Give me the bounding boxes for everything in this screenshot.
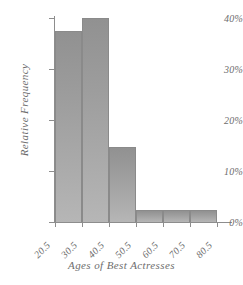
histogram-bar bbox=[55, 31, 82, 222]
x-tick-mark bbox=[217, 222, 218, 227]
x-axis-title: Ages of Best Actresses bbox=[0, 259, 243, 271]
x-tick-label: 70.5 bbox=[167, 239, 188, 260]
histogram-bar bbox=[190, 210, 217, 222]
x-tick-label: 60.5 bbox=[140, 239, 161, 260]
y-axis-title: Relative Frequency bbox=[18, 40, 30, 180]
x-tick-label: 80.5 bbox=[194, 239, 215, 260]
x-tick-label: 20.5 bbox=[32, 239, 53, 260]
x-tick-mark bbox=[55, 222, 56, 227]
x-tick-mark bbox=[109, 222, 110, 227]
histogram-bar bbox=[163, 210, 190, 222]
bars-layer bbox=[55, 18, 217, 222]
histogram-bar bbox=[136, 210, 163, 222]
histogram-bar bbox=[109, 147, 136, 222]
x-tick-mark bbox=[163, 222, 164, 227]
x-tick-label: 50.5 bbox=[113, 239, 134, 260]
plot-area bbox=[55, 18, 217, 222]
histogram-chart: Relative Frequency 0%10%20%30%40% 20.530… bbox=[0, 0, 243, 285]
x-tick-mark bbox=[136, 222, 137, 227]
histogram-bar bbox=[82, 18, 109, 222]
x-tick-label: 40.5 bbox=[86, 239, 107, 260]
x-tick-mark bbox=[82, 222, 83, 227]
x-tick-label: 30.5 bbox=[59, 239, 80, 260]
x-tick-mark bbox=[190, 222, 191, 227]
